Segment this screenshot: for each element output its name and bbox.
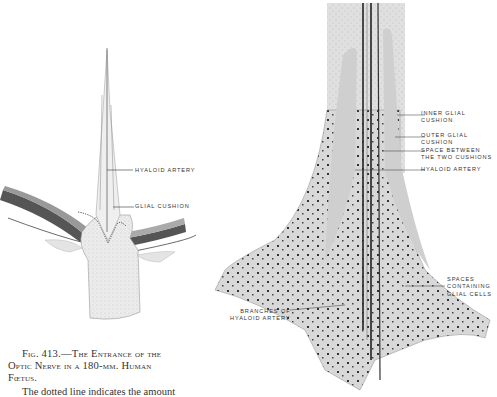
histology-section-diagram xyxy=(215,0,497,397)
caption-line-3: Fœtus. xyxy=(8,372,238,384)
label-outer-glial-cushion: OUTER GLIAL CUSHION xyxy=(421,132,468,147)
label-branches: BRANCHES OF HYALOID ARTERY xyxy=(230,308,290,323)
label-hyaloid-artery-left: HYALOID ARTERY xyxy=(135,167,195,174)
caption-line-2: Optic Nerve in a 180-mm. Human xyxy=(8,360,238,372)
caption-line-1: Fig. 413.—The Entrance of the xyxy=(8,348,238,360)
label-space-between: SPACE BETWEEN THE TWO CUSHIONS xyxy=(421,147,492,162)
body-text: The dotted line indicates the amount xyxy=(22,386,175,397)
label-glial-cushion: GLIAL CUSHION xyxy=(135,203,190,210)
label-spaces-containing: SPACES CONTAINING GLIAL CELLS xyxy=(447,276,492,298)
label-hyaloid-artery-right: HYALOID ARTERY xyxy=(421,166,481,173)
figure-caption: Fig. 413.—The Entrance of the Optic Nerv… xyxy=(8,348,238,384)
label-inner-glial-cushion: INNER GLIAL CUSHION xyxy=(421,110,466,125)
